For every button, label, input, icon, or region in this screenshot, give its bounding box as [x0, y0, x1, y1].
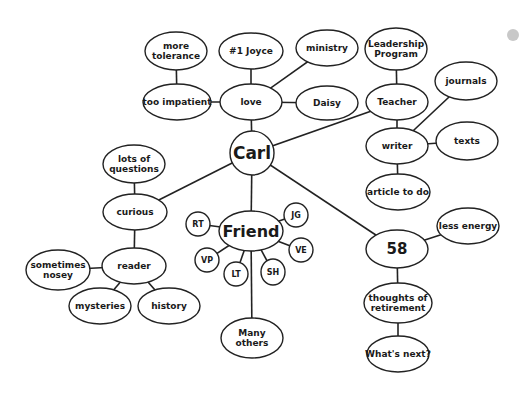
- node-label: tolerance: [152, 51, 200, 61]
- node-label: mysteries: [75, 301, 125, 311]
- node-label: writer: [382, 141, 413, 151]
- decorative-dot: [507, 29, 519, 41]
- node-label: VE: [295, 246, 307, 255]
- node-retirement: thoughts ofretirement: [364, 283, 432, 323]
- node-sh: SH: [261, 259, 285, 285]
- node-label: nosey: [43, 270, 73, 280]
- node-writer: writer: [366, 128, 428, 164]
- node-next: What's next?: [365, 336, 431, 372]
- node-lt: LT: [224, 262, 248, 286]
- node-friend: Friend: [219, 211, 283, 251]
- node-label: Program: [374, 49, 418, 59]
- node-reader: reader: [102, 248, 166, 284]
- node-label: SH: [267, 268, 279, 277]
- node-label: sometimes: [30, 260, 85, 270]
- node-label: retirement: [371, 303, 426, 313]
- node-label: VP: [201, 256, 213, 265]
- node-label: questions: [109, 164, 159, 174]
- node-impatient: too impatient: [143, 84, 213, 120]
- node-label: less energy: [439, 221, 498, 231]
- node-label: thoughts of: [368, 293, 427, 303]
- node-label: too impatient: [143, 97, 213, 107]
- node-label: article to do: [367, 187, 429, 197]
- node-label: love: [240, 97, 261, 107]
- node-tolerance: moretolerance: [145, 32, 207, 70]
- node-rt: RT: [186, 212, 210, 236]
- node-label: ministry: [306, 43, 348, 53]
- node-label: Many: [238, 328, 265, 338]
- node-label: Leadership: [368, 39, 425, 49]
- node-others: Manyothers: [221, 318, 283, 358]
- node-vp: VP: [195, 248, 219, 272]
- node-energy: less energy: [437, 208, 499, 244]
- node-texts: texts: [436, 122, 498, 160]
- node-ve: VE: [289, 238, 313, 262]
- node-label: LT: [231, 270, 241, 279]
- node-label: others: [236, 338, 269, 348]
- node-mysteries: mysteries: [69, 288, 131, 324]
- node-ministry: ministry: [296, 30, 358, 66]
- node-label: reader: [117, 261, 151, 271]
- node-label: more: [163, 41, 189, 51]
- node-label: What's next?: [365, 349, 431, 359]
- node-history: history: [138, 288, 200, 324]
- node-label: 58: [387, 240, 408, 258]
- node-carl: Carl: [230, 131, 274, 175]
- node-label: history: [151, 301, 187, 311]
- node-label: lots of: [118, 154, 150, 164]
- node-teacher: Teacher: [366, 84, 428, 120]
- node-label: #1 Joyce: [229, 46, 273, 56]
- node-jg: JG: [284, 203, 308, 227]
- node-article: article to do: [366, 174, 430, 210]
- node-label: texts: [454, 136, 480, 146]
- node-curious: curious: [103, 194, 167, 230]
- node-label: Friend: [223, 222, 280, 241]
- node-questions: lots ofquestions: [103, 145, 165, 183]
- node-label: RT: [192, 220, 204, 229]
- node-leadership: LeadershipProgram: [365, 28, 427, 70]
- node-journals: journals: [435, 62, 497, 100]
- node-nosey: sometimesnosey: [26, 250, 90, 290]
- node-label: JG: [290, 211, 301, 220]
- mind-map-nodes: Carllove#1 JoyceministryDaisytoo impatie…: [26, 28, 499, 372]
- node-label: Daisy: [313, 98, 341, 108]
- node-label: Carl: [233, 143, 271, 163]
- node-label: Teacher: [377, 97, 417, 107]
- node-label: curious: [116, 207, 153, 217]
- node-daisy: Daisy: [296, 86, 358, 120]
- node-age: 58: [366, 230, 428, 268]
- node-love: love: [220, 84, 282, 120]
- node-label: journals: [444, 76, 486, 86]
- mind-map-diagram: Carllove#1 JoyceministryDaisytoo impatie…: [0, 0, 525, 394]
- node-joyce: #1 Joyce: [219, 33, 283, 69]
